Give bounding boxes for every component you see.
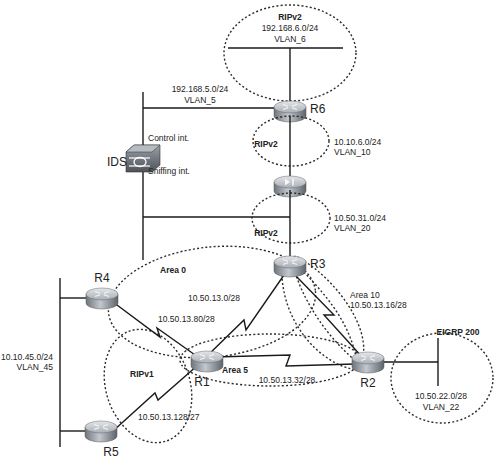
area0-label: Area 0 (160, 265, 186, 275)
r1-r3-serial-link (205, 275, 284, 358)
vlan22-vlan-label: VLAN_22 (423, 402, 460, 412)
router-r4-icon[interactable] (86, 288, 118, 309)
router-r6-label: R6 (310, 102, 326, 116)
r4-r1-serial-link (113, 302, 205, 362)
router-r2-label: R2 (360, 376, 376, 390)
area5-label: Area 5 (222, 365, 248, 375)
router-r2-icon[interactable] (352, 352, 384, 373)
vlan20-subnet-label: 10.50.31.0/24 (334, 213, 386, 223)
router-r5-icon[interactable] (85, 421, 117, 442)
vlan6-vlan-label: VLAN_6 (274, 34, 306, 44)
network-topology-diagram: RIPv2 192.168.6.0/24 VLAN_6 192.168.5.0/… (0, 0, 499, 460)
vlan20-protocol-label: RIPv2 (254, 228, 278, 238)
r5-r1-subnet-label: 10.50.13.128/27 (138, 412, 200, 422)
router-r3-label: R3 (310, 257, 326, 271)
router-r1-icon[interactable] (191, 351, 223, 372)
vlan22-protocol-label: EIGRP 200 (437, 327, 480, 337)
vlan5-subnet-label: 192.168.5.0/24 (172, 84, 229, 94)
ids-control-interface-label: Control int. (148, 133, 189, 143)
ids-sniffing-interface-label: Sniffing int. (148, 166, 190, 176)
vlan10-subnet-label: 10.10.6.0/24 (334, 137, 382, 147)
r3-r2-area-label: Area 10 (350, 290, 380, 300)
vlan45-subnet-label: 10.10.45.0/24 (1, 352, 53, 362)
r1-r3-subnet-label: 10.50.13.0/28 (188, 293, 240, 303)
vlan6-subnet-label: 192.168.6.0/24 (262, 23, 319, 33)
router-r4-label: R4 (94, 271, 110, 285)
router-r5-label: R5 (103, 445, 119, 459)
vlan5-vlan-label: VLAN_5 (184, 95, 216, 105)
vlan45-vlan-label: VLAN_45 (17, 362, 54, 372)
vlan20-vlan-label: VLAN_20 (334, 223, 371, 233)
vlan10-vlan-label: VLAN_10 (334, 147, 371, 157)
router-r1-label: R1 (194, 375, 210, 389)
vlan22-subnet-label: 10.50.22.0/28 (415, 391, 467, 401)
ripv1-label: RIPv1 (130, 369, 154, 379)
vlan6-protocol-label: RIPv2 (278, 12, 302, 22)
r3-r2-subnet-label: 10.50.13.16/28 (350, 300, 407, 310)
ids-label: IDS (107, 155, 127, 169)
router-r3-icon[interactable] (274, 256, 306, 277)
vlan10-protocol-label: RIPv2 (254, 139, 278, 149)
r4-r1-subnet-label: 10.50.13.80/28 (158, 314, 215, 324)
r1-r2-subnet-label: 10.50.13.32/28 (259, 375, 316, 385)
